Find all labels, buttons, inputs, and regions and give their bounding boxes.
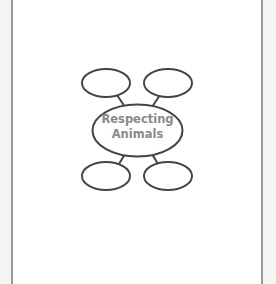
branch-node-top-right[interactable]: [144, 69, 192, 97]
center-label-line2: Animals: [92, 127, 183, 142]
center-node-label: Respecting Animals: [92, 112, 183, 142]
branch-node-bottom-right[interactable]: [144, 162, 192, 190]
branch-node-top-left[interactable]: [82, 69, 130, 97]
center-label-line1: Respecting: [92, 112, 183, 127]
branch-node-bottom-left[interactable]: [82, 162, 130, 190]
